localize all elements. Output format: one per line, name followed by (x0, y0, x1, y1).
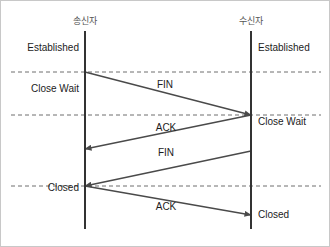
message-label-ack-1: ACK (156, 122, 177, 133)
sender-state-close-wait: Close Wait (31, 83, 79, 94)
tcp-termination-sequence-diagram: 송신자 수신자 Established Close Wait Closed Es… (0, 0, 330, 247)
sender-state-established: Established (27, 42, 79, 53)
message-label-fin-1: FIN (157, 79, 173, 90)
message-label-ack-2: ACK (156, 201, 177, 212)
message-label-fin-2: FIN (158, 147, 174, 158)
message-arrow-group (85, 72, 251, 215)
receiver-lifeline-title: 수신자 (239, 14, 264, 27)
sender-state-closed: Closed (48, 182, 79, 193)
receiver-state-close-wait: Close Wait (258, 116, 306, 127)
receiver-state-closed: Closed (258, 209, 289, 220)
receiver-state-established: Established (258, 42, 310, 53)
sender-lifeline-title: 송신자 (73, 14, 98, 27)
